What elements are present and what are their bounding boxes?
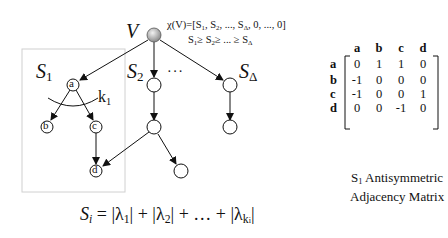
k1-label: k1: [98, 88, 111, 107]
k-letter: k: [98, 88, 106, 105]
sum-formula: Si = |λ1| + |λ2| + … + |λki|: [80, 204, 255, 226]
edge-s2child-d: [103, 132, 149, 166]
formula-eq: =: [92, 204, 111, 224]
node-b-label: b: [43, 119, 49, 131]
order-formula: S1≥ S2≥ ... ≥ SΔ: [188, 34, 252, 46]
chi-mid1: , S: [205, 19, 216, 30]
k-sub: 1: [106, 96, 111, 107]
chi-formula: χ(V)=[S1, S2, ..., SΔ, 0, ..., 0]: [167, 19, 286, 31]
node-sdelta-child: [223, 120, 237, 134]
sdelta-sub: Δ: [249, 69, 257, 84]
node-c-label: c: [92, 119, 97, 131]
node-a-label: a: [69, 77, 74, 89]
s1-letter: S: [36, 60, 46, 82]
s2-sub: 2: [137, 69, 144, 84]
node-s2: [147, 78, 161, 92]
subtree-label-s2: S2: [127, 60, 144, 85]
root-label: V: [126, 20, 138, 43]
k1-arc: [48, 98, 98, 106]
node-s2-child: [147, 120, 161, 134]
formula-dots: + … +: [174, 204, 230, 224]
subtree-label-sdelta: SΔ: [239, 60, 257, 85]
chi-mid2: , ..., S: [219, 19, 243, 30]
node-d-label: d: [92, 163, 98, 175]
col-header: c: [390, 41, 412, 55]
lambda-k: λ: [234, 204, 243, 224]
abs-bar: |: [251, 204, 255, 224]
lambda-1: λ: [115, 204, 124, 224]
col-header: b: [368, 41, 390, 55]
edge-a-b: [51, 90, 70, 120]
s2-letter: S: [127, 60, 137, 82]
order-ge2: ≥ ... ≥ S: [215, 34, 248, 45]
matrix-caption: S1 Antisymmetric Adjacency Matrix: [350, 170, 444, 204]
caption-line-2: Adjacency Matrix: [350, 189, 444, 204]
edge-s2child-leaf: [158, 134, 176, 164]
matrix-brackets: [344, 55, 448, 135]
sdelta-letter: S: [239, 60, 249, 82]
matrix-corner: [330, 41, 346, 55]
node-s2-leaf: [174, 164, 188, 178]
col-header: d: [412, 41, 434, 55]
adjacency-matrix: a b c d a 0 1 1 0 b -1 0 0 0 c -1 0 0 1 …: [330, 41, 434, 115]
chi-suffix: , 0, ..., 0]: [248, 19, 286, 30]
lambda-2: λ: [156, 204, 165, 224]
lambda-k-sub: ki: [243, 213, 251, 226]
edge-a-c: [76, 90, 93, 120]
caption-rest: Antisymmetric: [363, 170, 444, 185]
formula-lhs: S: [80, 204, 89, 224]
root-node-v: [147, 28, 161, 42]
matrix-header-row: a b c d: [330, 41, 434, 55]
s1-sub: 1: [46, 69, 53, 84]
caption-line-1: S1 Antisymmetric: [350, 170, 444, 189]
subtree-label-s1: S1: [36, 60, 53, 85]
col-header: a: [346, 41, 368, 55]
order-sd-sub: Δ: [248, 39, 252, 46]
chi-prefix: χ(V)=[S: [167, 19, 202, 30]
order-ge1: ≥ S: [197, 34, 211, 45]
formula-plus: +: [133, 204, 152, 224]
subtree-ellipsis: ···: [167, 64, 184, 80]
node-sdelta: [223, 78, 237, 92]
